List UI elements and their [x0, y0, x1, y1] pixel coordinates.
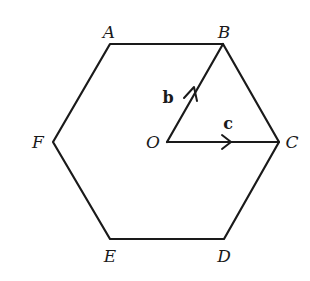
vertex-label-a: A — [101, 22, 115, 42]
vertex-label-e: E — [103, 246, 117, 266]
vertex-label-f: F — [31, 132, 45, 152]
vector-label-c: c — [223, 114, 233, 133]
centre-label-o: O — [146, 132, 160, 152]
vertex-label-d: D — [216, 246, 231, 266]
vertex-label-c: C — [285, 132, 298, 152]
vector-label-b: b — [162, 88, 173, 107]
vertex-label-b: B — [217, 22, 231, 42]
hexagon-diagram: A B C D E F O b c — [0, 0, 310, 281]
